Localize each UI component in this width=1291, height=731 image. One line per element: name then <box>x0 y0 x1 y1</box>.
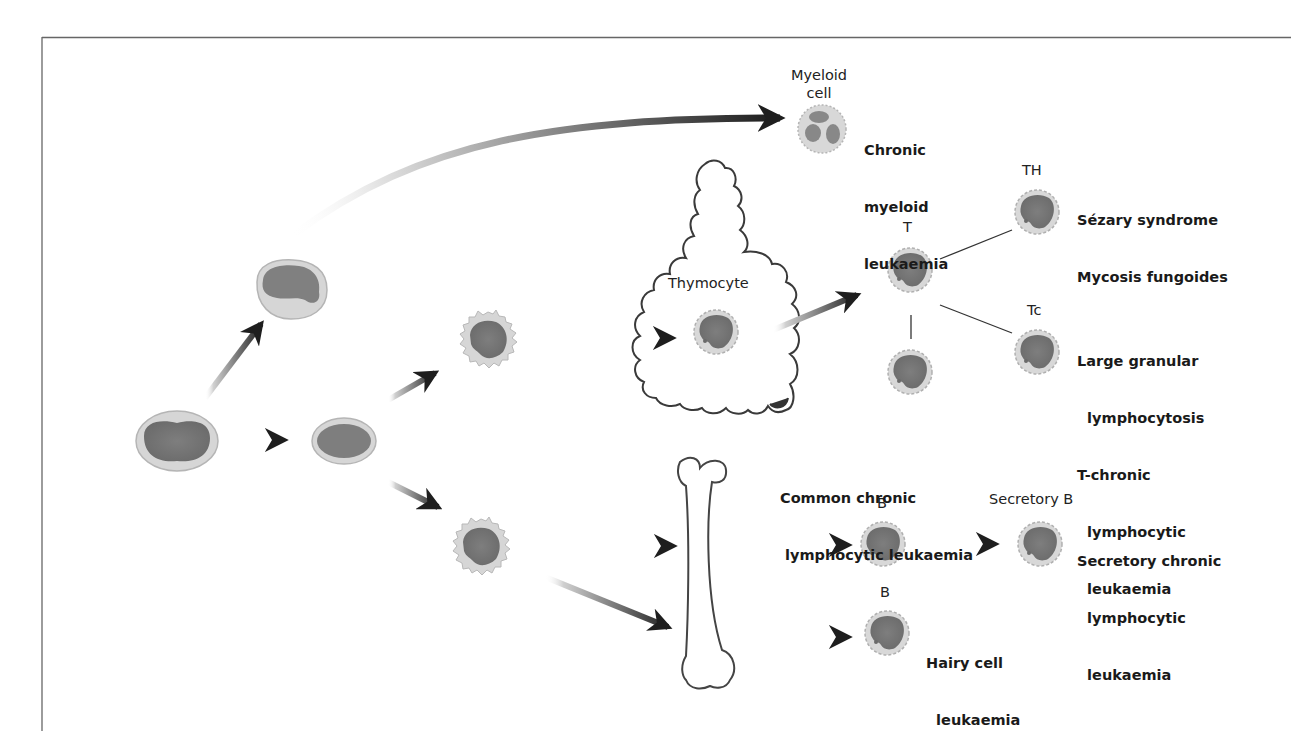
disease-line: Chronic <box>864 141 948 160</box>
disease-label-sezary-mycosis: Sézary syndrome Mycosis fungoides <box>1077 173 1228 306</box>
disease-line: lymphocytic <box>1077 609 1221 628</box>
connector-t-to-tc <box>940 305 1012 333</box>
disease-line: Hairy cell <box>926 654 1020 673</box>
disease-line: lymphocytic leukaemia <box>780 546 973 565</box>
tc-cell-label: Tc <box>1027 301 1041 320</box>
thymocyte-cell <box>694 310 738 354</box>
b-cell-hairy-label: B <box>880 583 890 602</box>
myeloid-cell <box>798 105 846 153</box>
disease-line: Common chronic <box>780 489 973 508</box>
disease-label-common-cll: Common chronic lymphocytic leukaemia <box>780 451 973 584</box>
disease-line: leukaemia <box>926 711 1020 730</box>
disease-line: leukaemia <box>1077 666 1221 685</box>
disease-line: myeloid <box>864 198 948 217</box>
disease-line: Sézary syndrome <box>1077 211 1228 230</box>
t-other-cell <box>888 350 932 394</box>
th-cell-label: TH <box>1022 161 1042 180</box>
b-cell-hairy <box>865 611 909 655</box>
disease-line: Large granular <box>1077 352 1204 371</box>
disease-line: Mycosis fungoides <box>1077 268 1228 287</box>
disease-line: leukaemia <box>864 255 948 274</box>
pre-t-cell <box>460 310 517 368</box>
tc-cell <box>1015 330 1059 374</box>
secretory-b-label: Secretory B <box>989 490 1073 509</box>
arrow-lymphoid-to-pre-t <box>388 373 435 400</box>
stem-cell <box>136 411 218 471</box>
disease-line: T-chronic <box>1077 466 1204 485</box>
myeloid-cell-label-line1: Myeloid <box>778 66 860 85</box>
myeloid-progenitor-cell <box>257 260 327 319</box>
disease-label-secretory-cll: Secretory chronic lymphocytic leukaemia <box>1077 514 1221 704</box>
myeloid-cell-label-line2: cell <box>778 84 860 103</box>
secretory-b-cell <box>1018 522 1062 566</box>
thymocyte-label: Thymocyte <box>668 274 749 293</box>
disease-label-chronic-myeloid-leukaemia: Chronic myeloid leukaemia <box>864 103 948 293</box>
th-cell <box>1015 190 1059 234</box>
disease-line: Secretory chronic <box>1077 552 1221 571</box>
disease-label-hairy-cell-leukaemia: Hairy cell leukaemia <box>926 616 1020 731</box>
arrow-stem-to-myeloid-progenitor <box>205 324 261 398</box>
arrow-lymphoid-to-pre-b <box>388 482 438 507</box>
bone-marrow-organ <box>678 458 734 689</box>
disease-line: lymphocytosis <box>1077 409 1204 428</box>
pre-b-cell <box>453 517 510 575</box>
lymphoid-progenitor-cell <box>312 418 376 464</box>
arrow-pre-b-to-bone-marrow-lower <box>545 577 668 627</box>
connector-t-to-th <box>940 230 1012 259</box>
